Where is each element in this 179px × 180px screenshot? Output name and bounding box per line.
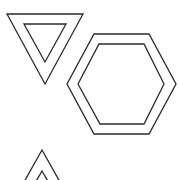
shape-layer bbox=[7, 14, 176, 180]
shapes-canvas bbox=[0, 0, 179, 180]
upright-triangle-outer bbox=[24, 150, 60, 180]
hexagon-inner bbox=[78, 44, 164, 124]
upright-triangle-inner bbox=[35, 171, 49, 180]
hexagon-outer bbox=[67, 34, 176, 134]
